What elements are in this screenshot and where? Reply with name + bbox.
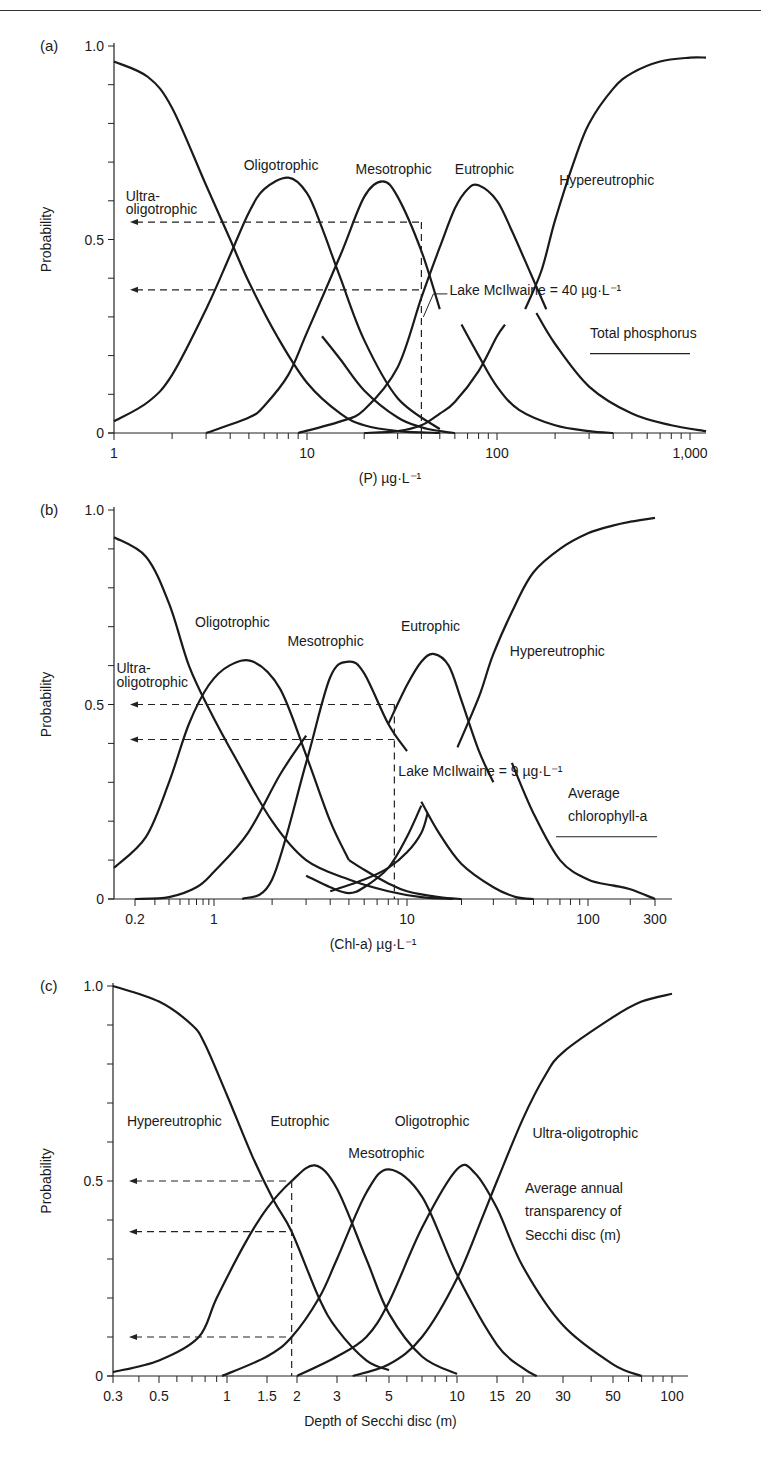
trophic-state-probability-figure: (a)01.00.5Probability1101001,000(P) µg·L… bbox=[0, 0, 761, 1460]
series-label: Mesotrophic bbox=[287, 633, 363, 649]
annotation-title-line-1: Average bbox=[568, 785, 620, 801]
y-tick-label: 0.5 bbox=[85, 697, 105, 713]
x-tick-label: 100 bbox=[660, 1388, 684, 1404]
y-tick-label: 1.0 bbox=[84, 978, 104, 994]
y-tick-label: 1.0 bbox=[85, 38, 105, 54]
x-tick-label: 0.2 bbox=[125, 911, 145, 927]
annotation-title: Total phosphorus bbox=[590, 325, 697, 341]
arrowhead-icon bbox=[129, 1229, 137, 1235]
arrowhead-icon bbox=[129, 1334, 137, 1340]
y-tick-label: 1.0 bbox=[85, 502, 105, 518]
curve-mesotrophic bbox=[242, 662, 407, 899]
x-tick-label: 0.3 bbox=[103, 1388, 123, 1404]
series-label: Eutrophic bbox=[455, 161, 514, 177]
series-label: Oligotrophic bbox=[244, 157, 319, 173]
panel-label: (a) bbox=[40, 37, 58, 54]
panel-label: (c) bbox=[40, 977, 58, 994]
x-tick-label: 0.5 bbox=[149, 1388, 169, 1404]
y-axis-label: Probability bbox=[38, 1148, 54, 1213]
curve-oligotrophic-low- bbox=[135, 736, 306, 899]
curve-hypereutrophic-descending- bbox=[512, 763, 655, 899]
x-tick-label: 100 bbox=[576, 911, 600, 927]
x-tick-label: 50 bbox=[605, 1388, 621, 1404]
x-tick-label: 30 bbox=[555, 1388, 571, 1404]
y-tick-label: 0 bbox=[95, 1368, 103, 1384]
x-tick-label: 20 bbox=[515, 1388, 531, 1404]
series-label: Eutrophic bbox=[270, 1113, 329, 1129]
curve-mesotrophic bbox=[206, 181, 440, 433]
x-tick-label: 1.5 bbox=[257, 1388, 277, 1404]
arrowhead-icon bbox=[130, 287, 138, 293]
annotation-line-1: Average annual bbox=[525, 1180, 623, 1196]
x-tick-label: 3 bbox=[333, 1388, 341, 1404]
x-tick-label: 1 bbox=[210, 911, 218, 927]
series-label: Mesotrophic bbox=[356, 161, 432, 177]
reference-label: Lake McIlwaine = 40 µg·L⁻¹ bbox=[449, 282, 621, 298]
x-tick-label: 1 bbox=[110, 445, 118, 461]
curve-eutrophic bbox=[298, 185, 546, 433]
series-label: oligotrophic bbox=[116, 674, 188, 690]
curve-hypereutrophic bbox=[113, 986, 389, 1370]
curve-ultra-oligotrophic bbox=[353, 994, 672, 1376]
reference-label: Lake McIlwaine = 9 µg·L⁻¹ bbox=[398, 763, 562, 779]
annotation-line-3: Secchi disc (m) bbox=[525, 1227, 621, 1243]
x-tick-label: 100 bbox=[485, 445, 509, 461]
x-tick-label: 1,000 bbox=[672, 445, 707, 461]
y-axis-label: Probability bbox=[38, 207, 54, 272]
curve-oligotrophic bbox=[114, 660, 349, 868]
x-axis-label: (Chl-a) µg·L⁻¹ bbox=[330, 936, 417, 952]
x-tick-label: 10 bbox=[399, 911, 415, 927]
y-tick-label: 0 bbox=[96, 425, 104, 441]
curve-hypereutrophic bbox=[458, 518, 656, 748]
series-label: Hypereutrophic bbox=[559, 172, 654, 188]
y-tick-label: 0.5 bbox=[85, 232, 105, 248]
x-tick-label: 1 bbox=[223, 1388, 231, 1404]
arrowhead-icon bbox=[130, 702, 138, 708]
annotation-title-line-2: chlorophyll-a bbox=[568, 808, 648, 824]
panel-c: (c)01.00.5Probability0.30.511.5235101520… bbox=[38, 977, 688, 1429]
series-label: Mesotrophic bbox=[348, 1145, 424, 1161]
panel-a: (a)01.00.5Probability1101001,000(P) µg·L… bbox=[38, 37, 708, 486]
x-tick-label: 5 bbox=[385, 1388, 393, 1404]
series-label: oligotrophic bbox=[126, 201, 198, 217]
y-tick-label: 0 bbox=[96, 891, 104, 907]
panel-b: (b)01.00.5Probability0.2110100300(Chl-a)… bbox=[38, 501, 672, 952]
arrowhead-icon bbox=[130, 737, 138, 743]
annotation-line-2: transparency of bbox=[525, 1203, 622, 1219]
arrowhead-icon bbox=[129, 1178, 137, 1184]
y-axis-label: Probability bbox=[38, 672, 54, 737]
x-tick-label: 10 bbox=[449, 1388, 465, 1404]
x-tick-label: 2 bbox=[293, 1388, 301, 1404]
x-axis-label: Depth of Secchi disc (m) bbox=[304, 1413, 457, 1429]
curve-eutrophic-tail- bbox=[421, 802, 533, 899]
x-tick-label: 15 bbox=[489, 1388, 505, 1404]
series-label: Ultra-oligotrophic bbox=[532, 1125, 638, 1141]
series-label: Oligotrophic bbox=[195, 614, 270, 630]
x-tick-label: 300 bbox=[643, 911, 667, 927]
series-label: Hypereutrophic bbox=[127, 1113, 222, 1129]
x-axis-label: (P) µg·L⁻¹ bbox=[359, 470, 422, 486]
series-label: Oligotrophic bbox=[395, 1113, 470, 1129]
arrowhead-icon bbox=[130, 219, 138, 225]
panel-label: (b) bbox=[40, 501, 58, 518]
series-label: Hypereutrophic bbox=[510, 643, 605, 659]
x-tick-label: 10 bbox=[299, 445, 315, 461]
y-tick-label: 0.5 bbox=[84, 1173, 104, 1189]
series-label: Eutrophic bbox=[401, 618, 460, 634]
